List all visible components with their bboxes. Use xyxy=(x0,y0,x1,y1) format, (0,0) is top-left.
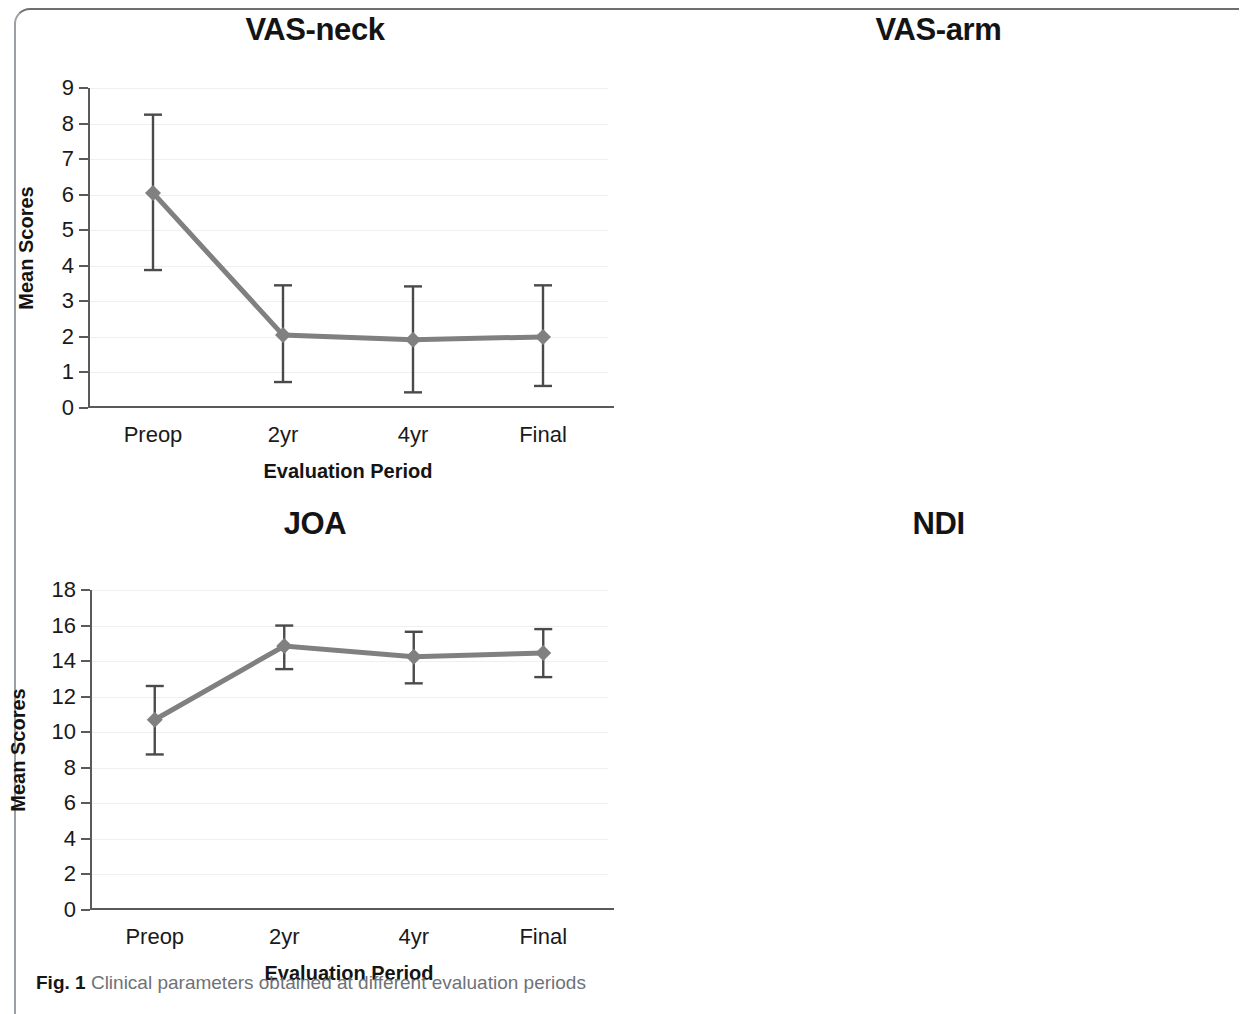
y-axis-tick xyxy=(79,87,88,89)
x-axis-category-label: 4yr xyxy=(398,422,429,448)
data-point-marker xyxy=(405,332,421,348)
figure-caption: Fig. 1 Clinical parameters obtained at d… xyxy=(36,972,586,994)
plot-area-vas-neck: Mean Scores Evaluation Period 0123456789… xyxy=(88,88,608,408)
y-axis-tick xyxy=(81,625,90,627)
y-axis-tick xyxy=(81,802,90,804)
chart-panel-joa: JOA Mean Scores Evaluation Period 024681… xyxy=(0,500,630,960)
x-axis-title-vas-neck: Evaluation Period xyxy=(264,460,433,483)
y-axis-tick xyxy=(81,696,90,698)
y-axis-tick xyxy=(79,123,88,125)
y-axis-tick xyxy=(79,371,88,373)
y-axis-tick xyxy=(81,767,90,769)
y-axis-tick xyxy=(81,731,90,733)
x-axis-category-label: 2yr xyxy=(268,422,299,448)
x-axis-category-label: Preop xyxy=(124,422,183,448)
figure-caption-label: Fig. 1 xyxy=(36,972,86,993)
y-axis-tick-label: 3 xyxy=(62,288,74,314)
y-axis-tick-label: 8 xyxy=(64,755,76,781)
y-axis-tick xyxy=(81,909,90,911)
y-axis-tick-label: 10 xyxy=(52,719,76,745)
y-axis-tick-label: 2 xyxy=(64,861,76,887)
y-axis-tick xyxy=(81,873,90,875)
y-axis-tick-label: 2 xyxy=(62,324,74,350)
y-axis-tick-label: 1 xyxy=(62,359,74,385)
series-line xyxy=(155,646,544,720)
chart-title-joa: JOA xyxy=(0,506,630,542)
y-axis-tick-label: 4 xyxy=(64,826,76,852)
y-axis-tick xyxy=(79,158,88,160)
y-axis-tick-label: 18 xyxy=(52,577,76,603)
y-axis-tick xyxy=(79,407,88,409)
data-point-marker xyxy=(406,649,422,665)
figure-panel-grid: VAS-neck Mean Scores Evaluation Period 0… xyxy=(0,0,1247,960)
y-axis-tick xyxy=(79,194,88,196)
data-point-marker xyxy=(535,645,551,661)
series-layer xyxy=(88,88,608,408)
chart-title-vas-arm: VAS-arm xyxy=(630,12,1247,48)
chart-title-ndi: NDI xyxy=(630,506,1247,542)
y-axis-tick-label: 4 xyxy=(62,253,74,279)
y-axis-tick xyxy=(79,229,88,231)
y-axis-tick-label: 0 xyxy=(64,897,76,923)
chart-panel-vas-arm: VAS-arm Mean scores Evaluation Period 01… xyxy=(630,0,1247,500)
y-axis-title-vas-neck: Mean Scores xyxy=(15,186,38,309)
chart-title-vas-neck: VAS-neck xyxy=(0,12,630,48)
y-axis-tick-label: 14 xyxy=(52,648,76,674)
chart-panel-ndi: NDI Mean Scores Evaluation Period 051015… xyxy=(630,500,1247,960)
y-axis-tick-label: 0 xyxy=(62,395,74,421)
y-axis-tick xyxy=(79,300,88,302)
y-axis-tick xyxy=(81,838,90,840)
x-axis-category-label: 4yr xyxy=(398,924,429,950)
series-layer xyxy=(90,590,608,910)
y-axis-tick-label: 8 xyxy=(62,111,74,137)
x-axis-category-label: 2yr xyxy=(269,924,300,950)
series-line xyxy=(153,193,543,340)
y-axis-tick xyxy=(81,660,90,662)
y-axis-tick-label: 12 xyxy=(52,684,76,710)
figure-caption-text: Clinical parameters obtained at differen… xyxy=(91,972,586,993)
y-axis-tick-label: 6 xyxy=(62,182,74,208)
y-axis-tick xyxy=(81,589,90,591)
plot-area-joa: Mean Scores Evaluation Period 0246810121… xyxy=(90,590,608,910)
chart-panel-vas-neck: VAS-neck Mean Scores Evaluation Period 0… xyxy=(0,0,630,500)
y-axis-tick-label: 5 xyxy=(62,217,74,243)
y-axis-tick-label: 9 xyxy=(62,75,74,101)
x-axis-category-label: Final xyxy=(519,422,567,448)
y-axis-tick-label: 6 xyxy=(64,790,76,816)
y-axis-tick-label: 16 xyxy=(52,613,76,639)
y-axis-tick xyxy=(79,336,88,338)
x-axis-category-label: Preop xyxy=(125,924,184,950)
y-axis-title-joa: Mean Scores xyxy=(7,688,30,811)
y-axis-tick-label: 7 xyxy=(62,146,74,172)
data-point-marker xyxy=(535,329,551,345)
x-axis-category-label: Final xyxy=(519,924,567,950)
y-axis-tick xyxy=(79,265,88,267)
